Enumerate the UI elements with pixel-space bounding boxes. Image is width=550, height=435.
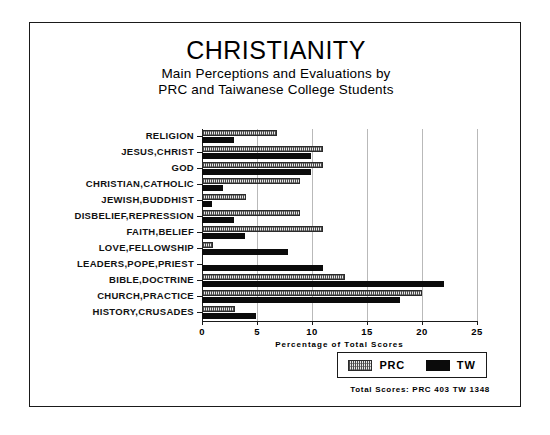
legend-entry-tw: TW (426, 359, 476, 371)
x-axis-tick-label: 0 (187, 326, 217, 337)
bar-tw (202, 153, 311, 159)
bar-tw (202, 281, 444, 287)
legend-label-tw: TW (457, 359, 476, 371)
title-block: CHRISTIANITY Main Perceptions and Evalua… (30, 37, 522, 98)
category-label: CHURCH,PRACTICE (97, 288, 194, 304)
category-label: FAITH,BELIEF (127, 224, 194, 240)
x-axis-tick-label: 25 (462, 326, 492, 337)
category-label: RELIGION (146, 128, 194, 144)
bar-row: GOD (202, 161, 477, 177)
bar-prc (202, 274, 345, 280)
bar-tw (202, 217, 234, 223)
category-label: JEWISH,BUDDHIST (101, 192, 194, 208)
category-label: BIBLE,DOCTRINE (109, 272, 194, 288)
x-axis-tick-label: 15 (352, 326, 382, 337)
category-label: LEADERS,POPE,PRIEST (77, 256, 194, 272)
bar-tw (202, 201, 212, 207)
bar-tw (202, 169, 311, 175)
figure-frame: CHRISTIANITY Main Perceptions and Evalua… (29, 22, 521, 407)
bar-prc (202, 306, 235, 312)
chart-legend: PRC TW (337, 352, 487, 378)
bar-row: JESUS,CHRIST (202, 145, 477, 161)
subtitle-line-2: PRC and Taiwanese College Students (30, 82, 522, 98)
bar-row: HISTORY,CRUSADES (202, 305, 477, 321)
bar-tw (202, 249, 288, 255)
bar-row: LOVE,FELLOWSHIP (202, 241, 477, 257)
x-axis-tick-label: 5 (242, 326, 272, 337)
bar-row: FAITH,BELIEF (202, 225, 477, 241)
legend-swatch-prc (348, 360, 372, 371)
x-axis-line (202, 321, 477, 322)
bar-row: BIBLE,DOCTRINE (202, 273, 477, 289)
x-axis-tick (422, 321, 423, 325)
bar-prc (202, 130, 277, 136)
bar-tw (202, 233, 245, 239)
x-axis-tick (312, 321, 313, 325)
bar-prc (202, 290, 422, 296)
bar-prc (202, 226, 323, 232)
category-label: DISBELIEF,REPRESSION (75, 208, 195, 224)
bar-prc (202, 210, 300, 216)
gridline (477, 129, 478, 321)
category-label: JESUS,CHRIST (121, 144, 194, 160)
legend-entry-prc: PRC (348, 359, 405, 371)
bar-tw (202, 185, 223, 191)
bar-tw (202, 297, 400, 303)
x-axis-title: Percentage of Total Scores (202, 340, 477, 349)
x-axis-tick-label: 20 (407, 326, 437, 337)
bar-prc (202, 194, 246, 200)
bar-prc (202, 242, 213, 248)
total-scores-note: Total Scores: PRC 403 TW 1348 (330, 385, 490, 394)
page-title: CHRISTIANITY (30, 37, 522, 64)
bar-tw (202, 137, 234, 143)
subtitle-line-1: Main Perceptions and Evaluations by (30, 66, 522, 82)
bar-prc (202, 146, 323, 152)
category-label: LOVE,FELLOWSHIP (99, 240, 194, 256)
bar-row: JEWISH,BUDDHIST (202, 193, 477, 209)
x-axis-tick (477, 321, 478, 325)
bar-tw (202, 265, 323, 271)
x-axis-tick (202, 321, 203, 325)
legend-label-prc: PRC (379, 359, 405, 371)
category-label: CHRISTIAN,CATHOLIC (86, 176, 194, 192)
bar-tw (202, 313, 256, 319)
chart-figure: CHRISTIANITY Main Perceptions and Evalua… (0, 0, 550, 435)
bar-row: CHURCH,PRACTICE (202, 289, 477, 305)
plot-area: RELIGIONJESUS,CHRISTGODCHRISTIAN,CATHOLI… (202, 129, 477, 321)
bar-row: CHRISTIAN,CATHOLIC (202, 177, 477, 193)
x-axis-tick (257, 321, 258, 325)
category-label: GOD (171, 160, 194, 176)
bar-prc (202, 162, 323, 168)
x-axis-tick (367, 321, 368, 325)
bar-prc (202, 178, 300, 184)
category-label: HISTORY,CRUSADES (93, 304, 194, 320)
legend-swatch-tw (426, 360, 450, 371)
bar-row: RELIGION (202, 129, 477, 145)
bar-row: LEADERS,POPE,PRIEST (202, 257, 477, 273)
x-axis-tick-label: 10 (297, 326, 327, 337)
bar-row: DISBELIEF,REPRESSION (202, 209, 477, 225)
